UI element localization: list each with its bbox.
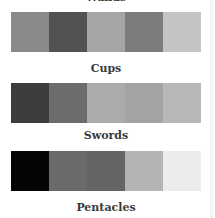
swatch: [49, 151, 87, 191]
swatch-row-cups: [11, 83, 201, 123]
swatch: [163, 83, 201, 123]
swatch-row-wands: [11, 12, 201, 52]
swatch: [11, 12, 49, 52]
swatch: [87, 12, 125, 52]
swatch: [87, 151, 125, 191]
swatch: [11, 83, 49, 123]
swatch: [49, 12, 87, 52]
swatch: [163, 151, 201, 191]
swatch: [49, 83, 87, 123]
swatch: [11, 151, 49, 191]
suit-label-cups: Cups: [11, 63, 201, 75]
suit-label-swords: Swords: [11, 130, 201, 142]
swatch: [163, 12, 201, 52]
swatch: [125, 83, 163, 123]
swatch: [125, 12, 163, 52]
suit-label-wands: Wands: [11, 0, 201, 4]
swatch: [125, 151, 163, 191]
page-edge: [210, 0, 213, 218]
swatch: [87, 83, 125, 123]
suit-label-pentacles: Pentacles: [11, 202, 201, 214]
swatch-row-swords: [11, 151, 201, 191]
